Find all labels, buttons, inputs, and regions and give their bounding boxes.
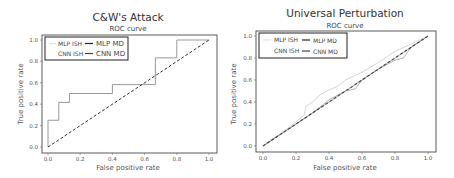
right-chart: Universal Perturbation ROC curve 0.00.20… [230, 7, 436, 172]
svg-text:CNN MD: CNN MD [313, 48, 338, 55]
svg-text:0.2: 0.2 [76, 156, 85, 162]
right-x-ticks: 0.00.20.40.60.81.0 [259, 152, 433, 161]
left-legend: MLP ISH MLP MD CNN ISH CNN MD [45, 37, 128, 60]
svg-text:0.6: 0.6 [29, 80, 38, 86]
svg-text:0.6: 0.6 [358, 155, 367, 161]
svg-text:0.6: 0.6 [243, 77, 252, 83]
svg-text:1.0: 1.0 [29, 37, 38, 43]
svg-text:0.4: 0.4 [243, 99, 252, 105]
right-chart-title: Universal Perturbation [286, 7, 403, 19]
svg-text:0.4: 0.4 [108, 156, 117, 162]
svg-text:MLP MD: MLP MD [96, 40, 124, 48]
right-legend: MLP ISH MLP MD CNN ISH CNN MD [259, 33, 347, 58]
svg-text:0.8: 0.8 [172, 156, 181, 162]
left-chart-title: C&W's Attack [92, 11, 164, 23]
left-y-label: True positive rate [17, 64, 25, 126]
svg-text:1.0: 1.0 [243, 33, 252, 39]
svg-text:0.4: 0.4 [325, 155, 334, 161]
svg-text:MLP ISH: MLP ISH [58, 40, 82, 47]
right-y-ticks: 0.00.20.40.60.81.0 [243, 33, 256, 149]
svg-text:0.0: 0.0 [243, 143, 252, 149]
svg-text:MLP MD: MLP MD [313, 37, 337, 44]
svg-text:CNN MD: CNN MD [96, 50, 125, 58]
right-x-label: False positive rate [313, 164, 377, 172]
left-chart: C&W's Attack ROC curve 0.00.20.40.60.81.… [17, 11, 217, 172]
left-chart-subtitle: ROC curve [109, 25, 146, 33]
svg-text:0.0: 0.0 [44, 156, 53, 162]
svg-text:0.8: 0.8 [243, 55, 252, 61]
svg-text:0.8: 0.8 [391, 155, 400, 161]
svg-text:0.2: 0.2 [243, 121, 252, 127]
left-y-ticks: 0.00.20.40.60.81.0 [29, 37, 42, 150]
svg-text:0.2: 0.2 [292, 155, 301, 161]
svg-text:CNN ISH: CNN ISH [58, 50, 83, 57]
svg-text:0.8: 0.8 [29, 58, 38, 64]
svg-text:1.0: 1.0 [205, 156, 214, 162]
svg-text:0.2: 0.2 [29, 123, 38, 129]
left-x-ticks: 0.00.20.40.60.81.0 [44, 153, 214, 162]
left-x-label: False positive rate [96, 164, 160, 172]
svg-text:0.0: 0.0 [259, 155, 268, 161]
svg-text:0.6: 0.6 [140, 156, 149, 162]
svg-text:CNN ISH: CNN ISH [274, 47, 299, 54]
svg-text:MLP ISH: MLP ISH [274, 36, 298, 43]
svg-text:0.4: 0.4 [29, 101, 38, 107]
right-chart-subtitle: ROC curve [326, 22, 363, 30]
svg-text:1.0: 1.0 [424, 155, 433, 161]
right-y-label: True positive rate [230, 64, 238, 126]
svg-text:0.0: 0.0 [29, 144, 38, 150]
figure: C&W's Attack ROC curve 0.00.20.40.60.81.… [0, 0, 454, 178]
